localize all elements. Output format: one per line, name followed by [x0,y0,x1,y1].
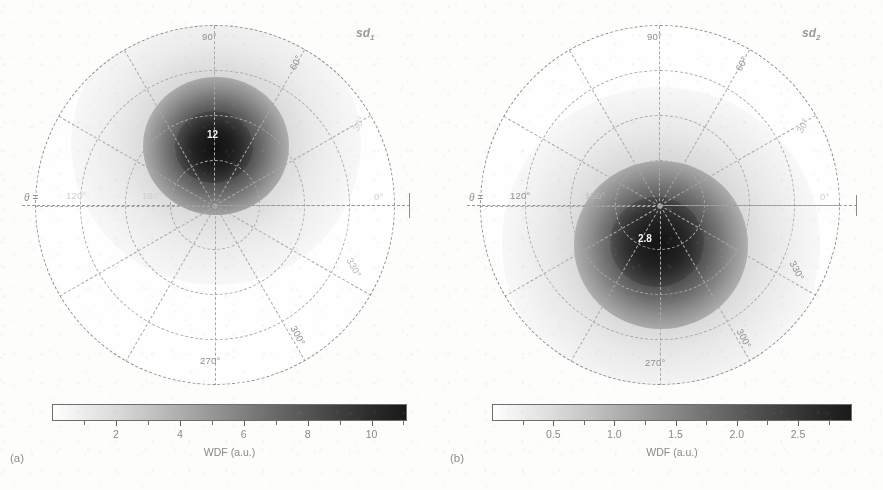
subband-label-b: sd2 [802,26,820,42]
colorbar-title-a: WDF (a.u.) [52,446,407,458]
angle-label-120-a: 120° [66,190,86,201]
theta-axis-line-b [467,205,857,207]
colorbar-tick-label-b-3: 1.5 [668,428,683,440]
theta-axis-label-a: θ = [24,192,38,203]
colorbar-tick-label-a-3: 6 [241,428,247,440]
colorbar-b: 0.5 1.0 1.5 2.0 2.5 WDF (a.u.) [492,404,852,490]
angle-label-150-a: 150° [142,190,162,201]
subband-label-a-subscript: 1 [370,33,374,42]
subband-label-b-subscript: 2 [816,33,820,42]
angle-label-120-b: 120° [510,190,530,201]
subband-label-b-text: sd [802,26,816,40]
theta-axis-end-tick-a [409,193,410,218]
colorbar-ticks-b [492,421,852,426]
colorbar-title-b: WDF (a.u.) [492,446,852,458]
angle-label-90-b: 90° [647,31,662,42]
polar-plot-b: 2.8 θ = 90° 60° 30° 0° 330° 300° 270° 12… [442,0,883,400]
theta-axis-end-tick-b [856,195,857,216]
colorbar-tick-label-a-5: 10 [366,428,378,440]
angle-label-270-b: 270° [645,357,665,368]
angle-label-0-b: 0° [820,191,829,202]
subband-label-a-text: sd [356,26,370,40]
subfigure-label-b: (b) [450,452,464,464]
angle-label-270-a: 270° [200,355,220,366]
panel-b: 2.8 θ = 90° 60° 30° 0° 330° 300° 270° 12… [442,0,883,490]
angle-label-90-a: 90° [202,31,217,42]
colorbar-tick-label-b-5: 2.5 [791,428,806,440]
angle-label-0-a: 0° [374,191,383,202]
colorbar-tick-label-b-4: 2.0 [729,428,744,440]
theta-axis-label-b: θ = [469,192,483,203]
colorbar-ticks-a [52,421,407,426]
subband-label-a: sd1 [356,26,374,42]
colorbar-a: 2 4 6 8 10 WDF (a.u.) [52,404,407,490]
figure-canvas: 12 θ = 90° 60° 30° 0° 330° 300° 270° 120… [0,0,883,490]
colorbar-tick-label-b-1: 0.5 [546,428,561,440]
colorbar-tick-label-a-4: 8 [305,428,311,440]
subfigure-label-a: (a) [10,452,24,464]
theta-axis-line-a [22,205,410,207]
colorbar-tick-label-a-2: 4 [177,428,183,440]
colorbar-tick-label-a-1: 2 [113,428,119,440]
polar-plot-a: 12 θ = 90° 60° 30° 0° 330° 300° 270° 120… [0,0,441,400]
colorbar-gradient-a [52,404,407,421]
colorbar-gradient-b [492,404,852,421]
panel-a: 12 θ = 90° 60° 30° 0° 330° 300° 270° 120… [0,0,441,490]
angle-label-150-b: 150° [585,190,605,201]
colorbar-tick-label-b-2: 1.0 [607,428,622,440]
